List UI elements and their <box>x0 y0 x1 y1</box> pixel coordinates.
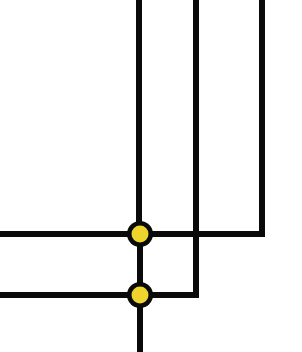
node-1-core <box>132 226 149 243</box>
internal-node-2[interactable] <box>127 282 153 308</box>
internal-node-1[interactable] <box>127 221 153 247</box>
cladogram-figure <box>0 0 302 352</box>
cladogram-canvas <box>0 0 302 352</box>
node-2-core <box>132 287 149 304</box>
